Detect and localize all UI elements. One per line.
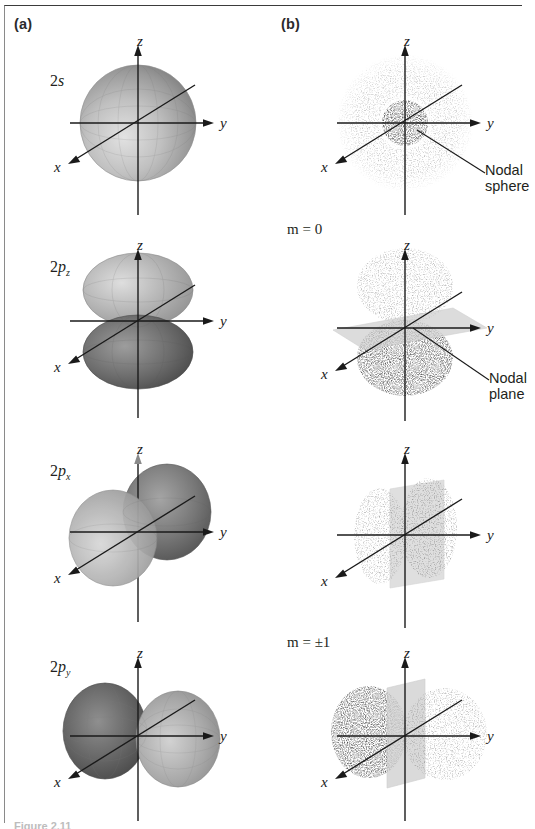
- callout-nodal-plane: Nodal plane: [489, 371, 527, 402]
- axis-label-x: x: [320, 774, 328, 790]
- quantum-number-label-mpm1: m = ±1: [287, 634, 330, 651]
- orbital-cell-2py-density: m = ±1 z y x: [277, 636, 535, 829]
- callout-nodal-sphere: Nodal sphere: [485, 163, 529, 194]
- orbital-cell-2s-density: z y x Nodal sphere: [277, 30, 535, 235]
- quantum-number-label-m0: m = 0: [287, 221, 322, 238]
- axis-label-z: z: [403, 645, 410, 661]
- axis-label-x: x: [320, 573, 328, 589]
- axis-label-z: z: [403, 237, 410, 253]
- axis-label-x: x: [53, 570, 61, 586]
- orbital-diagram-2px-dots: z y x: [277, 432, 535, 637]
- orbital-diagram-2pz: z y x: [10, 228, 268, 433]
- lobe-dots-right: [401, 478, 457, 578]
- orbital-diagram-2px: z y x: [10, 432, 268, 637]
- orbital-diagram-2s-dots: z y x: [277, 30, 535, 235]
- orbital-cell-2px-density: z y x: [277, 432, 535, 637]
- axis-label-z: z: [136, 237, 143, 253]
- orbital-diagram-2py: z y x: [10, 636, 268, 829]
- axis-label-x: x: [53, 774, 61, 790]
- figure-caption: Figure 2.11: [14, 820, 71, 829]
- lobe-near-2px: [69, 490, 157, 586]
- axis-label-y: y: [485, 527, 494, 543]
- axis-label-y: y: [485, 320, 494, 336]
- orbital-cell-2pz-density: m = 0 z y x Nodal plane: [277, 228, 535, 433]
- axis-label-z: z: [136, 645, 143, 661]
- orbital-cell-2s-surface: 2s z y x: [10, 30, 268, 235]
- axis-label-z: z: [403, 33, 410, 49]
- lobe-left-2py: [63, 683, 147, 779]
- orbital-diagram-2s: z y x: [10, 30, 268, 235]
- axis-label-z: z: [403, 441, 410, 457]
- axis-label-y: y: [218, 524, 227, 540]
- lobe-right-2py: [136, 691, 220, 787]
- axis-label-z: z: [136, 441, 143, 457]
- axis-label-y: y: [485, 115, 494, 131]
- orbital-cell-2pz-surface: 2pz: [10, 228, 268, 433]
- axis-label-y: y: [218, 115, 227, 131]
- axis-label-x: x: [320, 159, 328, 175]
- axis-label-y: y: [218, 313, 227, 329]
- lobe-dots-left: [354, 488, 406, 584]
- axis-label-x: x: [53, 159, 61, 175]
- axis-label-x: x: [53, 359, 61, 375]
- orbital-label-2pz: 2pz: [50, 258, 70, 278]
- axis-label-z: z: [136, 33, 143, 49]
- orbital-label-2py: 2py: [50, 658, 70, 678]
- orbital-cell-2px-surface: 2px: [10, 432, 268, 637]
- axis-label-y: y: [485, 728, 494, 744]
- axis-label-x: x: [320, 366, 328, 382]
- orbital-label-2s: 2s: [50, 72, 64, 90]
- orbital-cell-2py-surface: 2py: [10, 636, 268, 829]
- orbital-label-2px: 2px: [50, 462, 70, 482]
- axis-label-y: y: [218, 728, 227, 744]
- orbital-diagram-2py-dots: z y x: [277, 636, 535, 829]
